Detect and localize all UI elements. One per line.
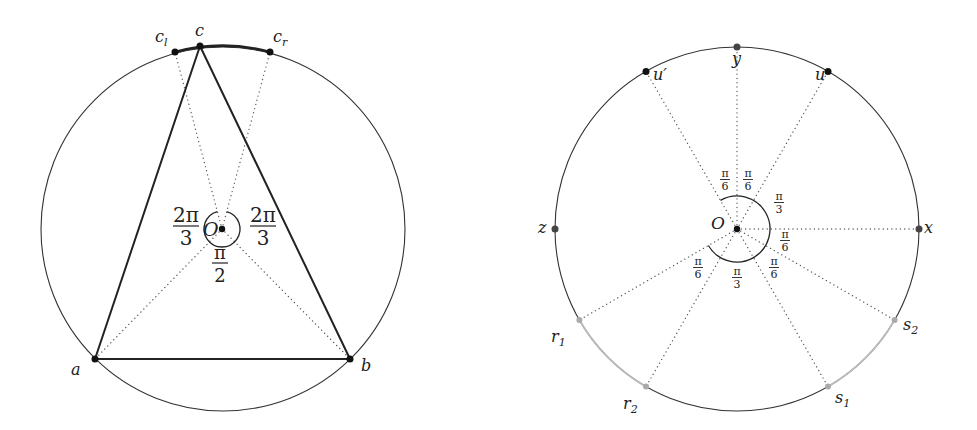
radius-O-r2 <box>646 229 737 387</box>
gray-arc-s1-s2 <box>828 320 895 387</box>
radius-O-s2 <box>737 229 895 320</box>
fraction-denominator: 3 <box>180 226 193 250</box>
arc-cl-cr <box>175 46 270 52</box>
left-center-point <box>219 226 225 232</box>
label-right-O: O <box>711 213 725 233</box>
angle-label-lower-left: π 6 <box>693 255 703 281</box>
point-r2 <box>643 384 649 390</box>
point-cr <box>267 49 274 56</box>
label-s1: s1 <box>835 388 850 410</box>
gray-arc-r1-r2 <box>579 320 646 387</box>
angle-label-bottom: π 3 <box>732 265 742 291</box>
label-b: b <box>361 356 371 375</box>
label-a: a <box>71 360 81 379</box>
label-u: u <box>815 65 825 84</box>
fraction-denominator: 3 <box>734 278 741 291</box>
point-cl <box>172 49 179 56</box>
angle-label-right: 2π 3 <box>250 203 276 250</box>
diagram-canvas: cl c cr a b O 2π 3 2π 3 π 2 <box>0 0 977 430</box>
radius-O-b <box>222 229 350 359</box>
fraction-numerator: 2π <box>173 203 199 227</box>
fraction-numerator: π <box>770 255 777 268</box>
label-y: y <box>731 49 742 68</box>
radius-O-u <box>737 71 828 229</box>
point-u-prime <box>643 68 650 75</box>
fraction-denominator: 6 <box>745 180 752 193</box>
point-r1 <box>576 317 582 323</box>
radius-O-r1 <box>579 229 737 320</box>
left-figure: cl c cr a b O 2π 3 2π 3 π 2 <box>41 21 405 411</box>
point-s1 <box>825 384 831 390</box>
fraction-denominator: 6 <box>695 268 702 281</box>
point-b <box>347 356 354 363</box>
angle-label-top-right: π 6 <box>743 167 753 193</box>
fraction-denominator: 2 <box>214 265 225 286</box>
label-z: z <box>537 218 547 237</box>
angle-label-lower-right: π 6 <box>769 255 779 281</box>
right-figure: y u′ u z x r1 r2 s1 s2 O π 6 π 6 π 3 π 6 <box>537 44 933 417</box>
angle-label-top-left: π 6 <box>720 167 730 193</box>
triangle-abc <box>95 46 350 359</box>
angle-label-bottom: π 2 <box>212 242 228 286</box>
fraction-numerator: π <box>214 242 226 263</box>
label-cr: cr <box>273 27 288 49</box>
point-s2 <box>892 317 898 323</box>
label-x: x <box>924 218 933 237</box>
point-z <box>552 226 559 233</box>
label-u-prime: u′ <box>653 65 667 84</box>
label-c: c <box>195 21 204 40</box>
fraction-numerator: π <box>694 255 701 268</box>
fraction-denominator: 6 <box>722 180 729 193</box>
point-c <box>197 43 204 50</box>
angle-label-upper-right: π 3 <box>774 190 784 216</box>
point-u <box>825 68 832 75</box>
right-center-point <box>734 226 740 232</box>
label-cl: cl <box>155 27 168 49</box>
radius-O-u-prime <box>646 71 737 229</box>
fraction-denominator: 3 <box>257 226 270 250</box>
label-r1: r1 <box>551 327 566 349</box>
fraction-numerator: π <box>781 228 788 241</box>
point-a <box>92 356 99 363</box>
fraction-denominator: 3 <box>776 203 783 216</box>
point-x <box>916 226 923 233</box>
angle-label-right: π 6 <box>780 228 790 254</box>
fraction-denominator: 6 <box>782 241 789 254</box>
label-left-O: O <box>203 218 219 240</box>
fraction-numerator: 2π <box>250 203 276 227</box>
fraction-denominator: 6 <box>771 268 778 281</box>
fraction-numerator: π <box>721 167 728 180</box>
fraction-numerator: π <box>733 265 740 278</box>
label-r2: r2 <box>623 394 638 416</box>
fraction-numerator: π <box>775 190 782 203</box>
fraction-numerator: π <box>744 167 751 180</box>
radius-O-a <box>95 229 222 359</box>
label-s2: s2 <box>903 315 918 337</box>
angle-label-left: 2π 3 <box>173 203 199 250</box>
